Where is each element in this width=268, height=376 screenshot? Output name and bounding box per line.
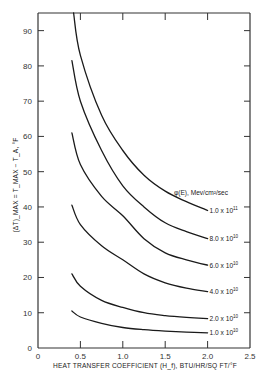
y-tick-label: 50: [23, 168, 32, 177]
y-tick-label: 30: [23, 238, 32, 247]
y-tick-label: 40: [23, 203, 32, 212]
x-tick-label: 2.5: [244, 352, 256, 361]
y-tick-label: 70: [23, 97, 32, 106]
legend-title: φ(E), Mev/cm²/sec: [174, 189, 229, 197]
y-tick-label: 0: [28, 344, 33, 353]
x-tick-label: 0: [36, 352, 41, 361]
y-tick-label: 10: [23, 309, 32, 318]
x-tick-label: 1.5: [160, 352, 172, 361]
y-tick-label: 60: [23, 132, 32, 141]
y-tick-label: 80: [23, 62, 32, 71]
y-tick-label: 90: [23, 27, 32, 36]
y-tick-label: 20: [23, 273, 32, 282]
x-tick-label: 2.0: [202, 352, 214, 361]
x-tick-label: 1.0: [117, 352, 129, 361]
x-tick-label: 0.5: [75, 352, 87, 361]
y-axis-title: (ΔT)_MAX = T_MAX − T_A, °F: [12, 137, 20, 232]
x-axis-title: HEAT TRANSFER COEFFICIENT (H_f), BTU/HR/…: [53, 362, 237, 370]
chart: 0102030405060708090 00.51.01.52.02.5 1.0…: [0, 0, 268, 376]
